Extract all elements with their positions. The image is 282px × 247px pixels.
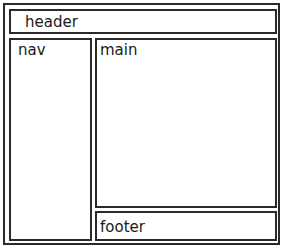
main-label: main [100, 42, 137, 58]
header-region: header [9, 9, 277, 34]
footer-region: footer [95, 211, 277, 241]
nav-label: nav [18, 42, 46, 58]
header-label: header [25, 14, 78, 30]
main-region: main [95, 38, 277, 208]
nav-region: nav [9, 38, 92, 241]
footer-label: footer [100, 219, 145, 235]
